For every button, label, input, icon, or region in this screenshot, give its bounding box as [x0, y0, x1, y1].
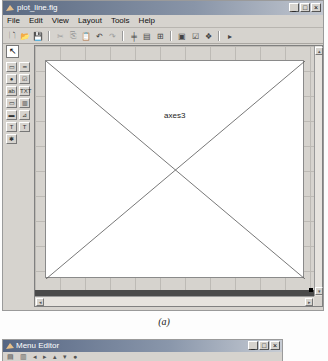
menu-editor-title-bar[interactable]: Menu Editor _ □ ×: [3, 340, 282, 352]
vertical-scrollbar[interactable]: ▴ ▾: [314, 46, 322, 296]
edit-text-tool-icon[interactable]: ab: [6, 86, 17, 96]
maximize-button[interactable]: □: [300, 3, 310, 12]
copy-icon[interactable]: ⎘: [68, 31, 78, 41]
scroll-left-arrow-icon[interactable]: ◂: [36, 298, 44, 306]
toolbar-separator: [170, 31, 172, 41]
menu-view[interactable]: View: [52, 15, 69, 27]
radio-button-tool-icon[interactable]: ●: [6, 74, 17, 84]
object-browser-icon[interactable]: ❖: [203, 31, 213, 41]
save-icon[interactable]: 💾: [33, 31, 43, 41]
menu-editor-icon[interactable]: ▤: [142, 31, 152, 41]
static-text-tool-icon[interactable]: TXT: [19, 86, 30, 96]
m-file-editor-icon[interactable]: ▣: [177, 31, 187, 41]
scroll-up-arrow-icon[interactable]: ▴: [315, 47, 323, 55]
axes-tool-icon[interactable]: ⊿: [19, 110, 30, 120]
move-left-icon[interactable]: ◂: [33, 353, 37, 361]
paste-icon[interactable]: 📋: [81, 31, 91, 41]
axes-tag-label: axes3: [164, 111, 185, 120]
run-icon[interactable]: ▸: [225, 31, 235, 41]
window-title: plot_line.fig: [17, 3, 57, 12]
scroll-right-arrow-icon[interactable]: ▸: [305, 298, 313, 306]
menu-bar: File Edit View Layout Tools Help: [3, 15, 323, 28]
menu-tools[interactable]: Tools: [111, 15, 130, 27]
toggle-button-tool-icon[interactable]: ▬: [6, 110, 17, 120]
new-menu-item-icon[interactable]: ▥: [20, 353, 27, 361]
listbox-tool-icon[interactable]: ▥: [19, 98, 30, 108]
slider-tool-icon[interactable]: ━: [19, 62, 30, 72]
layout-canvas[interactable]: axes3 ◂ ▸ ▴ ▾: [34, 45, 323, 307]
menu-editor-close-button[interactable]: ×: [270, 341, 280, 350]
toolbar-separator: [48, 31, 50, 41]
check-box-tool-icon[interactable]: ☑: [19, 74, 30, 84]
menu-edit[interactable]: Edit: [29, 15, 43, 27]
button-group-tool-icon[interactable]: T: [19, 122, 30, 132]
undo-icon[interactable]: ↶: [94, 31, 104, 41]
toolbar-separator: [122, 31, 124, 41]
panel-tool-icon[interactable]: T: [6, 122, 17, 132]
select-arrow-icon[interactable]: ↖: [6, 45, 19, 58]
menu-editor-title: Menu Editor: [16, 341, 59, 350]
close-button[interactable]: ×: [311, 3, 321, 12]
axes-placeholder-cross: [46, 61, 305, 279]
matlab-icon: [6, 342, 14, 350]
popup-menu-tool-icon[interactable]: ▭: [6, 98, 17, 108]
new-file-icon[interactable]: 🗋: [7, 31, 17, 41]
menu-editor-minimize-button[interactable]: _: [248, 341, 258, 350]
redo-icon[interactable]: ↷: [107, 31, 117, 41]
matlab-icon: [6, 4, 14, 12]
guide-window: plot_line.fig _ □ × File Edit View Layou…: [2, 0, 324, 311]
menu-layout[interactable]: Layout: [78, 15, 102, 27]
property-inspector-icon[interactable]: ☑: [190, 31, 200, 41]
menu-editor-window: Menu Editor _ □ × ▤ ▥ ◂ ▸ ▴ ▾ ●: [2, 339, 283, 361]
title-bar[interactable]: plot_line.fig _ □ ×: [3, 1, 323, 15]
tab-order-editor-icon[interactable]: ⊞: [155, 31, 165, 41]
new-menu-icon[interactable]: ▤: [7, 353, 14, 361]
toolbar-separator: [218, 31, 220, 41]
move-down-icon[interactable]: ▾: [63, 353, 67, 361]
horizontal-scrollbar[interactable]: ◂ ▸: [35, 296, 314, 306]
menu-help[interactable]: Help: [139, 15, 155, 27]
menu-editor-toolbar: ▤ ▥ ◂ ▸ ▴ ▾ ●: [7, 353, 77, 361]
move-right-icon[interactable]: ▸: [43, 353, 47, 361]
cut-icon[interactable]: ✂: [55, 31, 65, 41]
push-button-tool-icon[interactable]: ▭: [6, 62, 17, 72]
axes-component[interactable]: axes3: [45, 60, 304, 278]
delete-icon[interactable]: ●: [73, 353, 77, 361]
component-palette: ↖ ▭ ━ ● ☑ ab TXT ▭ ▥ ▬ ⊿ T T ✱: [6, 45, 33, 305]
figure-caption: (a): [0, 316, 328, 327]
move-up-icon[interactable]: ▴: [53, 353, 57, 361]
align-objects-icon[interactable]: ╪: [129, 31, 139, 41]
toolbar: 🗋 📂 💾 ✂ ⎘ 📋 ↶ ↷ ╪ ▤ ⊞ ▣ ☑ ❖ ▸: [3, 29, 323, 44]
activex-control-tool-icon[interactable]: ✱: [6, 134, 17, 144]
resize-handle[interactable]: [309, 288, 313, 292]
menu-file[interactable]: File: [7, 15, 20, 27]
menu-editor-maximize-button[interactable]: □: [259, 341, 269, 350]
minimize-button[interactable]: _: [289, 3, 299, 12]
scroll-down-arrow-icon[interactable]: ▾: [315, 287, 323, 295]
open-icon[interactable]: 📂: [20, 31, 30, 41]
